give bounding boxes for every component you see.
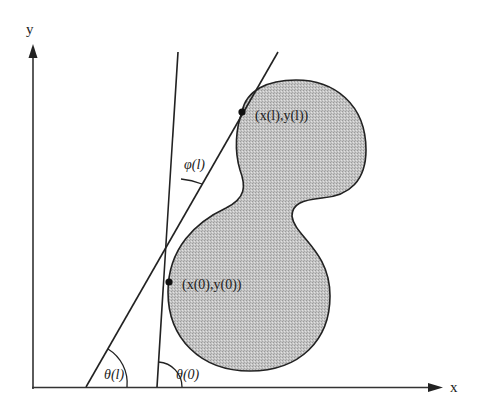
peanut-region [168,80,366,371]
tangent-angle-diagram: y x θ(l) θ(0) φ(l) (x(l),y(l)) (x(0),y(0… [0,0,484,413]
point-label-x0-y0: (x(0),y(0)) [182,277,242,293]
x-axis-arrow-icon [428,383,443,392]
angle-arc-phi-l [181,179,202,184]
y-axis-arrow-icon [29,44,38,58]
angle-label-theta-0: θ(0) [176,367,200,383]
point-x-l-y-l [238,108,245,115]
angle-label-theta-l: θ(l) [104,367,124,383]
point-label-x-l-y-l: (x(l),y(l)) [255,108,309,124]
x-axis-label: x [450,379,458,395]
y-axis-label: y [26,21,34,37]
point-x0-y0 [165,278,172,285]
angle-label-phi-l: φ(l) [184,157,205,173]
tangent-line-0 [157,52,178,387]
